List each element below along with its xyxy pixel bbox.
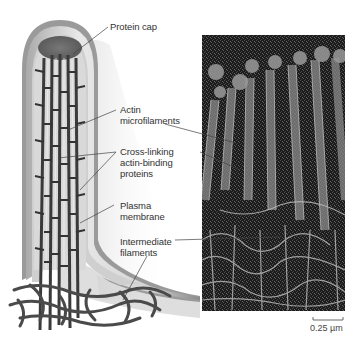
label-protein-cap: Protein cap xyxy=(110,21,157,32)
illustration xyxy=(0,0,362,350)
label-text: Plasma xyxy=(120,200,165,211)
label-text: filaments xyxy=(120,247,172,258)
label-text: Protein cap xyxy=(110,21,157,32)
label-text: microfilaments xyxy=(120,115,180,126)
scale-bar xyxy=(313,317,343,320)
label-text: membrane xyxy=(120,211,165,222)
label-plasma-membrane: Plasma membrane xyxy=(120,200,165,222)
scale-bar-label: 0.25 µm xyxy=(310,323,343,333)
label-text: Intermediate xyxy=(120,236,172,247)
label-actin-microfilaments: Actin microfilaments xyxy=(120,104,180,126)
label-cross-linking: Cross-linking actin-binding proteins xyxy=(120,146,174,179)
label-intermediate-filaments: Intermediate filaments xyxy=(120,236,172,258)
label-text: Cross-linking xyxy=(120,146,174,157)
label-text: proteins xyxy=(120,168,174,179)
label-text: actin-binding xyxy=(120,157,174,168)
label-text: Actin xyxy=(120,104,180,115)
figure: Protein cap Actin microfilaments Cross-l… xyxy=(0,0,362,350)
micrograph xyxy=(201,35,347,311)
